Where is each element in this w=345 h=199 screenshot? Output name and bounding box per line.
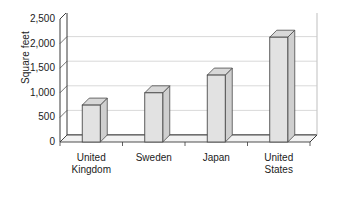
- bar-chart-graphic: [58, 13, 318, 149]
- y-tick-label: 1,000: [15, 88, 55, 98]
- bar-2: [207, 68, 232, 142]
- y-tick-label: 2,000: [15, 39, 55, 49]
- y-tick-label: 1,500: [15, 63, 55, 73]
- x-tick-label: United Kingdom: [56, 152, 126, 176]
- x-axis-tick-labels: United KingdomSwedenJapanUnited States: [58, 152, 320, 196]
- x-tick-label: Sweden: [119, 152, 189, 164]
- bar-3: [270, 30, 295, 142]
- x-tick-label: United States: [244, 152, 314, 176]
- y-tick-label: 500: [15, 112, 55, 122]
- x-tick-label: Japan: [181, 152, 251, 164]
- bar-0: [82, 98, 107, 142]
- plot-area: [58, 13, 318, 149]
- y-axis-tick-labels: 05001,0001,5002,0002,500: [10, 0, 55, 199]
- y-tick-label: 2,500: [15, 14, 55, 24]
- chart-figure: Square feet 05001,0001,5002,0002,500 Uni…: [0, 0, 345, 199]
- y-tick-label: 0: [15, 137, 55, 147]
- bar-1: [145, 86, 170, 142]
